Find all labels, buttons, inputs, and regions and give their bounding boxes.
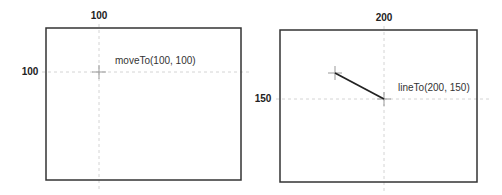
canvas-diagram: 100 100 moveTo(100, 100) 200 150 lineTo(… [0,0,502,195]
y-tick-label: 100 [22,66,39,77]
annotation-lineto: lineTo(200, 150) [398,82,470,93]
drawn-line-segment [335,73,384,99]
annotation-moveto: moveTo(100, 100) [115,55,196,66]
y-tick-label: 150 [255,93,272,104]
canvas-frame [280,30,477,182]
crosshair-icon [92,65,106,79]
x-tick-label: 100 [91,10,108,21]
panel-moveto: 100 100 moveTo(100, 100) [22,10,250,190]
canvas-frame [46,28,241,180]
x-tick-label: 200 [376,12,393,23]
panel-lineto: 200 150 lineTo(200, 150) [255,12,490,192]
